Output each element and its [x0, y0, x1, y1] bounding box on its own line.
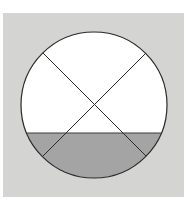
- circle-diagram: [0, 0, 189, 203]
- shaded-segment: [0, 133, 189, 203]
